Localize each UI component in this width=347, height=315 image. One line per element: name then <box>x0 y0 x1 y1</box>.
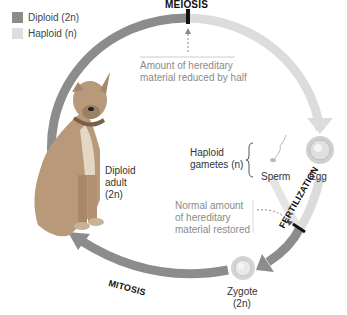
meiosis-pointer-head <box>185 28 191 34</box>
sperm-icon <box>270 135 286 162</box>
restored-annotation-line1: Normal amount <box>175 200 243 212</box>
egg-icon <box>306 136 334 164</box>
gametes-label-line1: Haploid <box>190 147 224 159</box>
zygote-label-line2: (2n) <box>233 298 251 310</box>
adult-label-line2: adult <box>105 177 127 189</box>
sperm-label: Sperm <box>261 171 290 183</box>
restored-annotation-line2: of hereditary <box>175 212 231 224</box>
diploid-arc-mitosis <box>80 240 228 274</box>
adult-label-line3: (2n) <box>105 189 123 201</box>
haploid-arrowhead-egg <box>307 118 333 134</box>
diploid-arc-fertilization <box>268 228 300 262</box>
meiosis-label: MEIOSIS <box>165 0 208 10</box>
gametes-brace <box>246 143 253 177</box>
zygote-icon <box>231 256 255 280</box>
gametes-label-line2: gametes (n) <box>190 159 243 171</box>
reduced-annotation-line1: Amount of hereditary <box>140 60 233 72</box>
restored-annotation-line3: material restored <box>175 224 250 236</box>
life-cycle-diagram <box>0 0 347 315</box>
zygote-label-line1: Zygote <box>227 286 258 298</box>
reduced-annotation-line2: material reduced by half <box>140 72 247 84</box>
adult-label-line1: Diploid <box>105 165 136 177</box>
meiosis-marker <box>186 9 190 24</box>
egg-label: Egg <box>309 171 327 183</box>
dog-image <box>34 72 110 236</box>
